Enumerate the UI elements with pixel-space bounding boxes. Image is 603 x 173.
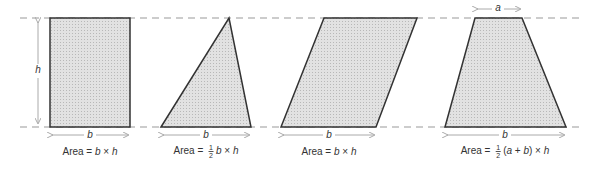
triangle-shape xyxy=(161,18,251,127)
parallelogram-formula: Area = b × h xyxy=(301,146,356,157)
parallelogram-shape xyxy=(281,18,417,127)
base-label-2: b xyxy=(203,129,209,140)
base-label-1: b xyxy=(87,129,93,140)
top-a-label: a xyxy=(495,2,501,13)
base-label-4: b xyxy=(502,129,508,140)
rectangle-formula: Area = b × h xyxy=(62,146,117,157)
trapezoid-shape xyxy=(445,18,566,127)
base-label-3: b xyxy=(326,129,332,140)
triangle-formula: Area = 12b × h xyxy=(174,144,239,159)
trapezoid-formula: Area = 12(a + b) × h xyxy=(461,144,550,159)
rectangle-shape xyxy=(50,18,130,127)
height-label: h xyxy=(35,64,41,75)
